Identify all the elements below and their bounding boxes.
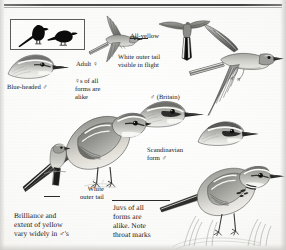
caption-all-yellow: All-yellow (130, 33, 159, 41)
caption-blue-headed-male: Blue-headed ♂ (7, 84, 47, 92)
caption-white-outer-tail: White outer tail (62, 186, 104, 202)
caption-juvenile-note: Juvs of all forms are alike. Note throat… (113, 203, 151, 239)
caption-adult-female: Adult ♀ (76, 61, 98, 69)
caption-females-alike: ♀s of all forms are alike (75, 78, 100, 103)
field-guide-plate: All-yellow White outer tail visible in f… (0, 0, 286, 250)
top-rule-secondary (4, 7, 282, 8)
figure-small-perched-rear (40, 140, 76, 188)
leader-white-outer-tail (44, 196, 60, 197)
figure-juvenile-standing (160, 150, 286, 250)
figure-head-blue-headed-male (6, 52, 74, 82)
caption-scandinavian-form-male: Scandinavian form ♂ (147, 147, 183, 163)
leader-juvenile-rule (112, 200, 170, 201)
figure-silhouette-pair (14, 22, 82, 48)
caption-white-outer-tail-flight: White outer tail visible in flight (118, 54, 160, 70)
caption-male-britain: ♂ (Britain) (150, 94, 180, 102)
caption-brilliance-note: Brilliance and extent of yellow vary wid… (14, 211, 69, 238)
figure-head-scandinavian-male (196, 118, 260, 150)
